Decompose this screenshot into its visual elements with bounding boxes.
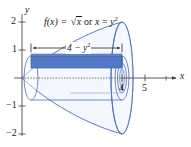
- formula-prefix: f(x) =: [44, 16, 70, 27]
- formula-middle: or: [82, 16, 95, 27]
- y-tick-label-2: 2: [11, 16, 16, 26]
- x-axis-label: x: [180, 72, 184, 82]
- representative-rectangle: [31, 54, 122, 68]
- shell-strip-fill: [31, 56, 122, 68]
- formula-rhs-exponent: 2: [114, 15, 117, 22]
- y-tick-label-1: 1: [12, 44, 17, 54]
- solid-surface-fill: [22, 22, 133, 134]
- radical-argument: x: [76, 16, 81, 27]
- dimension-label-exponent: 2: [87, 41, 90, 48]
- dimension-label-base: 4 − y: [67, 43, 87, 53]
- radical-group: √x: [70, 16, 82, 27]
- shell-strip-top-face: [31, 54, 122, 56]
- solid-body: [22, 22, 133, 134]
- y-tick-label-minus-2: −2: [6, 128, 17, 138]
- y-tick-label-minus-1: −1: [6, 100, 17, 110]
- dimension-label: 4 − y2: [66, 42, 91, 54]
- function-formula-label: f(x) = √x or x = y2: [44, 16, 118, 27]
- formula-equals: =: [99, 16, 110, 27]
- figure-container: f(x) = √x or x = y2 4 − y2 y x 2 1 −1 −2…: [0, 0, 191, 147]
- x-tick-label-4: 4: [119, 83, 124, 93]
- x-tick-label-5: 5: [142, 83, 147, 93]
- y-axis-label: y: [25, 6, 29, 16]
